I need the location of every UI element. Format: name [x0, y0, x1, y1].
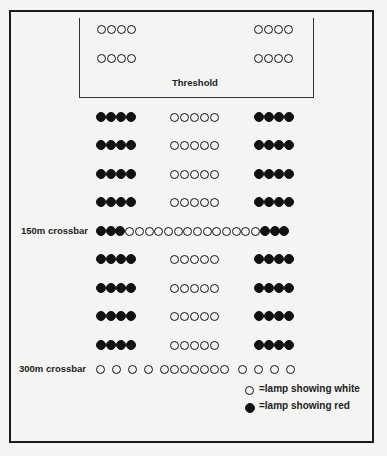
- red-lamp-icon: [96, 254, 106, 264]
- white-lamp-icon: [164, 227, 173, 236]
- red-lamp-icon: [254, 311, 264, 321]
- white-lamp-icon: [180, 284, 189, 293]
- white-lamp-icon: [254, 25, 263, 34]
- white-lamp-icon: [180, 365, 189, 374]
- white-lamp-icon: [190, 341, 199, 350]
- red-lamp-icon: [126, 254, 136, 264]
- red-lamp-icon: [284, 311, 294, 321]
- white-lamp-icon: [200, 255, 209, 264]
- threshold-label: Threshold: [172, 77, 218, 88]
- white-lamp-icon: [128, 365, 137, 374]
- crossbar-150-label: 150m crossbar: [21, 225, 88, 236]
- white-lamp-icon: [144, 365, 153, 374]
- red-lamp-icon: [270, 226, 280, 236]
- white-lamp-icon: [200, 170, 209, 179]
- red-lamp-icon: [284, 254, 294, 264]
- legend-red-lamp-icon: [245, 403, 255, 413]
- white-lamp-icon: [170, 341, 179, 350]
- white-lamp-icon: [284, 54, 293, 63]
- red-lamp-icon: [274, 112, 284, 122]
- white-lamp-icon: [212, 227, 221, 236]
- white-lamp-icon: [222, 227, 231, 236]
- red-lamp-icon: [254, 283, 264, 293]
- white-lamp-icon: [193, 227, 202, 236]
- red-lamp-icon: [116, 169, 126, 179]
- red-lamp-icon: [106, 283, 116, 293]
- white-lamp-icon: [190, 198, 199, 207]
- red-lamp-icon: [284, 140, 294, 150]
- red-lamp-icon: [284, 197, 294, 207]
- white-lamp-icon: [210, 255, 219, 264]
- red-lamp-icon: [106, 311, 116, 321]
- red-lamp-icon: [96, 197, 106, 207]
- red-lamp-icon: [284, 283, 294, 293]
- white-lamp-icon: [200, 113, 209, 122]
- white-lamp-icon: [135, 227, 144, 236]
- white-lamp-icon: [200, 141, 209, 150]
- red-lamp-icon: [116, 140, 126, 150]
- white-lamp-icon: [180, 198, 189, 207]
- red-lamp-icon: [274, 197, 284, 207]
- red-lamp-icon: [274, 311, 284, 321]
- red-lamp-icon: [264, 112, 274, 122]
- white-lamp-icon: [200, 198, 209, 207]
- white-lamp-icon: [200, 365, 209, 374]
- red-lamp-icon: [274, 140, 284, 150]
- red-lamp-icon: [274, 283, 284, 293]
- red-lamp-icon: [264, 283, 274, 293]
- red-lamp-icon: [264, 140, 274, 150]
- red-lamp-icon: [254, 169, 264, 179]
- white-lamp-icon: [203, 227, 212, 236]
- red-lamp-icon: [264, 197, 274, 207]
- white-lamp-icon: [200, 284, 209, 293]
- white-lamp-icon: [125, 227, 134, 236]
- white-lamp-icon: [180, 170, 189, 179]
- white-lamp-icon: [180, 312, 189, 321]
- white-lamp-icon: [200, 312, 209, 321]
- white-lamp-icon: [170, 284, 179, 293]
- white-lamp-icon: [180, 255, 189, 264]
- white-lamp-icon: [170, 113, 179, 122]
- red-lamp-icon: [260, 226, 270, 236]
- white-lamp-icon: [264, 54, 273, 63]
- red-lamp-icon: [106, 140, 116, 150]
- white-lamp-icon: [210, 141, 219, 150]
- white-lamp-icon: [270, 365, 279, 374]
- red-lamp-icon: [116, 254, 126, 264]
- red-lamp-icon: [126, 340, 136, 350]
- white-lamp-icon: [170, 312, 179, 321]
- red-lamp-icon: [126, 169, 136, 179]
- red-lamp-icon: [96, 283, 106, 293]
- white-lamp-icon: [145, 227, 154, 236]
- white-lamp-icon: [210, 312, 219, 321]
- white-lamp-icon: [210, 341, 219, 350]
- white-lamp-icon: [170, 198, 179, 207]
- white-lamp-icon: [200, 341, 209, 350]
- white-lamp-icon: [284, 25, 293, 34]
- white-lamp-icon: [160, 365, 169, 374]
- red-lamp-icon: [96, 112, 106, 122]
- red-lamp-icon: [264, 254, 274, 264]
- red-lamp-icon: [264, 340, 274, 350]
- white-lamp-icon: [180, 341, 189, 350]
- white-lamp-icon: [127, 25, 136, 34]
- white-lamp-icon: [254, 365, 263, 374]
- white-lamp-icon: [264, 25, 273, 34]
- red-lamp-icon: [96, 311, 106, 321]
- white-lamp-icon: [190, 255, 199, 264]
- white-lamp-icon: [170, 255, 179, 264]
- red-lamp-icon: [126, 311, 136, 321]
- white-lamp-icon: [210, 284, 219, 293]
- white-lamp-icon: [254, 54, 263, 63]
- white-lamp-icon: [190, 284, 199, 293]
- white-lamp-icon: [210, 170, 219, 179]
- white-lamp-icon: [117, 25, 126, 34]
- white-lamp-icon: [97, 54, 106, 63]
- red-lamp-icon: [106, 254, 116, 264]
- red-lamp-icon: [126, 112, 136, 122]
- red-lamp-icon: [116, 197, 126, 207]
- red-lamp-icon: [96, 140, 106, 150]
- white-lamp-icon: [174, 227, 183, 236]
- white-lamp-icon: [107, 54, 116, 63]
- crossbar-300-label: 300m crossbar: [19, 363, 86, 374]
